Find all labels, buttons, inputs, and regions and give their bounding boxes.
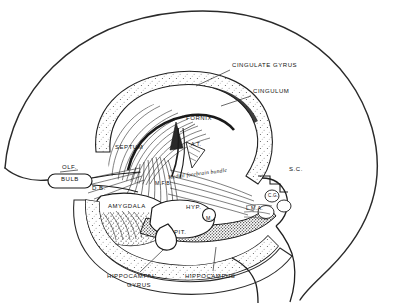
hypothalamus-pituitary: [150, 200, 214, 250]
label-hippocampus: HIPPOCAMPUS: [185, 273, 235, 281]
cingulate-gyrus-body: [96, 71, 273, 184]
label-cingulum: CINGULUM: [253, 88, 289, 96]
label-central-gray: C.G.: [268, 192, 278, 200]
label-fornix: FORNIX: [186, 115, 212, 123]
diagram-artwork: [0, 0, 405, 303]
label-cingulate-gyrus: CINGULATE GYRUS: [232, 62, 297, 70]
label-olfactory: OLF.: [62, 164, 77, 172]
label-hypothalamus: HYP.: [186, 204, 201, 212]
label-amygdala: AMYGDALA: [108, 203, 146, 211]
label-mammillary: M.: [206, 215, 212, 223]
label-lma: L.M.A.: [246, 205, 263, 213]
label-superior-colliculus: S.C.: [289, 166, 303, 174]
label-bulb: BULB: [61, 176, 79, 184]
label-pituitary: PIT.: [174, 229, 187, 237]
limbic-system-diagram: CINGULATE GYRUS CINGULUM FORNIX SEPTUM O…: [0, 0, 405, 303]
label-hippocampal-gyrus-line1: HIPPOCAMPAL: [107, 273, 156, 281]
label-hippocampal-gyrus-line2: GYRUS: [127, 282, 151, 290]
label-septum: SEPTUM: [115, 144, 143, 152]
label-anterior-thalamus: A.T.: [191, 141, 201, 149]
label-diagonal-band: D.B.: [92, 185, 106, 193]
